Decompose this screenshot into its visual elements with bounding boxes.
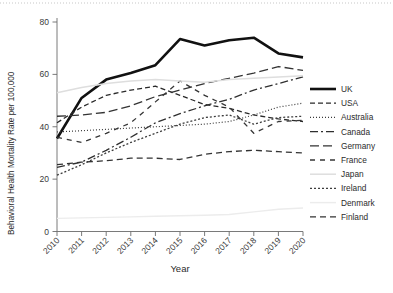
legend-label-uk: UK: [341, 84, 353, 94]
legend-label-usa: USA: [341, 98, 359, 108]
y-tick-label: 20: [40, 174, 50, 184]
line-chart-figure: Behavioral Health Mortality Rate per 100…: [0, 0, 393, 293]
legend-label-germany: Germany: [341, 141, 376, 151]
y-tick-label: 60: [40, 69, 50, 79]
y-axis-label: Behavioral Health Mortality Rate per 100…: [7, 71, 16, 235]
legend-label-finland: Finland: [341, 212, 369, 222]
y-tick-label: 40: [40, 122, 50, 132]
x-axis-label: Year: [170, 263, 189, 274]
y-tick-label: 0: [44, 227, 49, 237]
legend-label-france: France: [341, 155, 367, 165]
legend-label-ireland: Ireland: [341, 183, 367, 193]
y-tick-label: 80: [40, 17, 50, 27]
legend-label-australia: Australia: [341, 112, 374, 122]
legend-label-japan: Japan: [341, 169, 364, 179]
legend-label-denmark: Denmark: [341, 198, 376, 208]
legend-label-canada: Canada: [341, 127, 370, 137]
